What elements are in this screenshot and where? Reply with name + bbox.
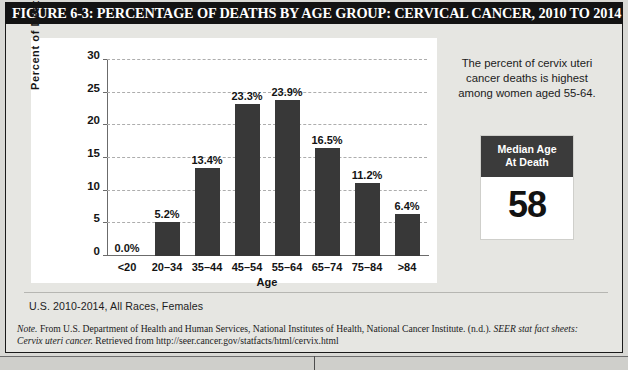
y-tick-label: 30 [87, 49, 100, 61]
y-tick-label: 15 [87, 147, 100, 159]
bar-slot: 6.4%>84 [387, 60, 427, 256]
bar-value-label: 16.5% [311, 134, 342, 146]
x-tick-label: <20 [118, 261, 137, 273]
bar[interactable]: 13.4% [195, 168, 220, 256]
bar-slot: 11.2%75–84 [347, 60, 387, 256]
y-tick-label: 10 [87, 179, 100, 191]
chart-card: Percent of Deaths 051015202530 0.0%<205.… [31, 38, 437, 283]
bar[interactable]: 23.9% [275, 100, 300, 256]
x-tick-label: >84 [398, 261, 417, 273]
x-tick-label: 35–44 [192, 261, 223, 273]
y-tick-label: 0 [94, 245, 100, 257]
figure-title-text: FIGURE 6-3: PERCENTAGE OF DEATHS BY AGE … [12, 5, 621, 22]
bar[interactable]: 11.2% [355, 183, 380, 256]
bar-value-label: 6.4% [394, 200, 419, 212]
y-tick-label: 20 [87, 114, 100, 126]
bar-series: 0.0%<205.2%20–3413.4%35–4423.3%45–5423.9… [107, 60, 427, 256]
bar-value-label: 11.2% [352, 169, 383, 181]
footnote-divider [24, 292, 608, 293]
median-age-header-line1: Median Age [483, 143, 571, 156]
median-age-value: 58 [481, 177, 573, 239]
bar[interactable]: 16.5% [315, 148, 340, 256]
bar-slot: 16.5%65–74 [307, 60, 347, 256]
figure-caption: U.S. 2010-2014, All Races, Females [29, 300, 203, 312]
x-tick-label: 55–64 [272, 261, 303, 273]
note-italic-2: Cervix uteri cancer. [17, 335, 93, 346]
x-tick-label: 45–54 [232, 261, 263, 273]
bar[interactable]: 5.2% [155, 222, 180, 256]
median-age-card: Median Age At Death 58 [481, 136, 573, 239]
y-tick-label: 25 [87, 81, 100, 93]
x-tick-label: 75–84 [352, 261, 383, 273]
bar-slot: 23.9%55–64 [267, 60, 307, 256]
note-body-1: From U.S. Department of Health and Human… [38, 323, 494, 334]
page-fold-vertical [314, 356, 315, 370]
bar[interactable]: 23.3% [235, 104, 260, 256]
x-tick-label: 20–34 [152, 261, 183, 273]
note-prefix: Note. [17, 323, 38, 334]
bar-slot: 0.0%<20 [107, 60, 147, 256]
figure-title-banner: FIGURE 6-3: PERCENTAGE OF DEATHS BY AGE … [5, 2, 623, 24]
bar-value-label: 23.9% [271, 86, 302, 98]
figure-note: Note. From U.S. Department of Health and… [17, 323, 613, 348]
bar-value-label: 5.2% [154, 208, 179, 220]
figure-page: FIGURE 6-3: PERCENTAGE OF DEATHS BY AGE … [0, 0, 628, 370]
x-tick-label: 65–74 [312, 261, 343, 273]
bar-slot: 5.2%20–34 [147, 60, 187, 256]
bar-value-label: 13.4% [191, 154, 222, 166]
bar-slot: 13.4%35–44 [187, 60, 227, 256]
info-description: The percent of cervix uteri cancer death… [447, 56, 607, 101]
bar[interactable]: 6.4% [395, 214, 420, 256]
note-italic-1: SEER stat fact sheets: [493, 323, 577, 334]
bar-slot: 23.3%45–54 [227, 60, 267, 256]
median-age-header: Median Age At Death [481, 136, 573, 177]
info-panel: The percent of cervix uteri cancer death… [447, 56, 607, 101]
median-age-header-line2: At Death [483, 156, 571, 169]
bar-value-label: 0.0% [114, 242, 139, 254]
bar-value-label: 23.3% [231, 90, 262, 102]
y-tick-label: 5 [94, 212, 100, 224]
note-body-2: Retrieved from http://seer.cancer.gov/st… [93, 335, 339, 346]
x-axis-title: Age [107, 276, 427, 288]
plot-area: 051015202530 0.0%<205.2%20–3413.4%35–442… [107, 60, 427, 256]
